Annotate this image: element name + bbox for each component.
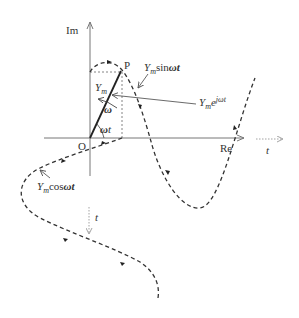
origin-label: O bbox=[78, 140, 86, 152]
sine-leader-line bbox=[138, 74, 148, 88]
horizontal-time-label: t bbox=[266, 144, 270, 156]
sine-curve bbox=[90, 60, 255, 208]
direction-arrow-icon bbox=[61, 159, 66, 163]
point-p-label: P bbox=[124, 59, 130, 71]
angle-label: ωt bbox=[100, 123, 112, 135]
cosine-annotation: Ymcosωt bbox=[37, 180, 76, 195]
direction-arrow-icon bbox=[63, 238, 68, 242]
phasor-diagram: Im Re O P Ym ω ωt Yms bbox=[0, 0, 299, 318]
exponential-leader-line bbox=[112, 95, 196, 104]
direction-arrow-icon bbox=[165, 170, 170, 175]
direction-arrow-icon bbox=[120, 262, 125, 266]
phasor-magnitude-label: Ym bbox=[95, 81, 107, 96]
imaginary-axis-label: Im bbox=[66, 24, 79, 36]
vertical-time-label: t bbox=[95, 211, 99, 223]
sine-annotation: Ymsinωt bbox=[144, 61, 181, 76]
angular-velocity-label: ω bbox=[104, 103, 112, 115]
direction-arrow-icon bbox=[101, 141, 106, 145]
exponential-annotation: Ymejωt bbox=[199, 95, 227, 111]
direction-arrow-icon bbox=[233, 125, 237, 130]
cosine-leader-line bbox=[40, 170, 50, 178]
